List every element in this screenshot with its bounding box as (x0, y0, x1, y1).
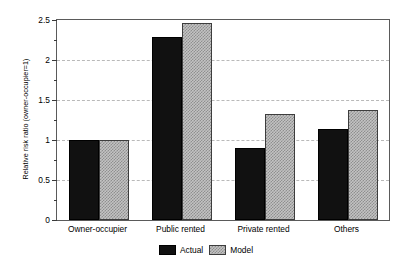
bar-group (235, 20, 295, 220)
y-axis-minor-tick (54, 120, 57, 121)
y-axis-minor-tick (54, 200, 57, 201)
y-axis-minor-tick (54, 160, 57, 161)
y-axis-tick (52, 60, 57, 61)
legend-item-actual: Actual (159, 245, 203, 255)
plot-area: 00.511.522.5 (56, 19, 390, 221)
y-axis-tick-label: 1 (45, 136, 50, 144)
y-axis-title: Relative risk ratio (owner-occupier=1) (19, 19, 33, 219)
bar-model (182, 23, 212, 220)
bar-model (265, 114, 295, 220)
y-axis-tick (52, 140, 57, 141)
y-axis-minor-tick (54, 80, 57, 81)
bar-actual (235, 148, 265, 220)
bar-chart-figure: Relative risk ratio (owner-occupier=1) 0… (0, 0, 412, 274)
y-axis-tick-label: 2.5 (38, 16, 50, 24)
y-axis-tick-label: 2 (45, 56, 50, 64)
bar-group (152, 20, 212, 220)
legend-label-model: Model (230, 245, 253, 255)
y-axis-tick (52, 180, 57, 181)
bar-model (348, 110, 378, 220)
x-axis-label: Others (297, 224, 397, 235)
y-axis-minor-tick (54, 40, 57, 41)
bar-actual (152, 37, 182, 220)
y-axis-tick (52, 100, 57, 101)
bar-actual (318, 129, 348, 220)
y-axis-tick-label: 0.5 (38, 176, 50, 184)
legend-item-model: Model (209, 245, 253, 255)
legend-swatch-actual (159, 245, 176, 255)
y-axis-tick (52, 20, 57, 21)
chart-legend: Actual Model (0, 245, 412, 255)
bar-model (99, 140, 129, 220)
y-axis-tick-label: 1.5 (38, 96, 50, 104)
y-axis-tick (52, 220, 57, 221)
bar-group (69, 20, 129, 220)
legend-swatch-model (209, 245, 226, 255)
bar-actual (69, 140, 99, 220)
y-axis-tick-label: 0 (45, 216, 50, 224)
legend-label-actual: Actual (180, 245, 203, 255)
bar-group (318, 20, 378, 220)
